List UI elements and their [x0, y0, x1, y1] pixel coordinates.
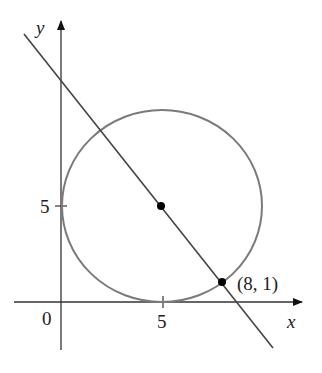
y-axis-label: y [34, 17, 45, 38]
diagram-canvas: y x 0 5 5 (8, 1) [0, 0, 322, 373]
center-point [157, 202, 165, 210]
y-tick-label: 5 [40, 196, 50, 217]
point-label: (8, 1) [237, 273, 278, 295]
point-8-1 [218, 278, 226, 286]
x-tick-label: 5 [157, 311, 167, 332]
x-axis-label: x [286, 311, 296, 332]
origin-label: 0 [42, 308, 52, 329]
